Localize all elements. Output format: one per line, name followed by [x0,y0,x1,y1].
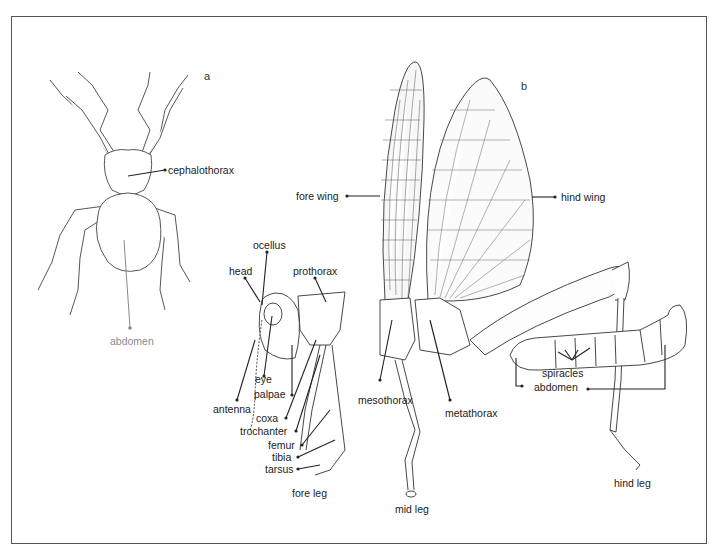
label-cephalothorax: cephalothorax [168,165,234,176]
label-fore-leg: fore leg [292,488,327,499]
label-antenna: antenna [213,404,251,415]
label-femur: femur [268,440,295,451]
label-palpae: palpae [254,389,286,400]
label-mesothorax: mesothorax [358,395,413,406]
label-trochanter: trochanter [240,426,287,437]
label-metathorax: metathorax [445,408,498,419]
label-mid-leg: mid leg [395,504,429,515]
label-hind-leg: hind leg [614,478,651,489]
label-fore-wing: fore wing [296,191,339,202]
illustration [0,0,718,557]
label-tibia: tibia [272,452,291,463]
label-spider-abdomen: abdomen [110,336,154,347]
label-abdomen: abdomen [534,382,578,393]
label-eye: eye [255,374,272,385]
label-ocellus: ocellus [253,240,286,251]
label-head: head [229,266,252,277]
label-hind-wing: hind wing [561,192,605,203]
panel-a-letter: a [204,70,210,82]
label-prothorax: prothorax [293,266,337,277]
spider-drawing [38,72,190,315]
label-tarsus: tarsus [265,464,294,475]
label-coxa: coxa [256,413,278,424]
label-spiracles: spiracles [542,368,583,379]
panel-b-letter: b [521,80,527,92]
